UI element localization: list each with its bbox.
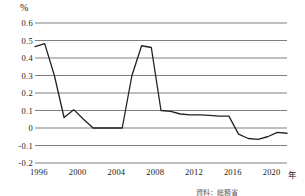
y-tick-label: 0 (1, 124, 33, 133)
x-tick-label: 1996 (22, 168, 56, 177)
y-tick-label: 0.5 (1, 37, 33, 46)
y-tick-label: 0.2 (1, 89, 33, 98)
y-tick-label: -0.1 (1, 142, 33, 151)
y-tick-label: 0.6 (1, 19, 33, 28)
source-note: 資料：総務省 (196, 187, 238, 196)
x-axis-unit-label: 年 (288, 168, 297, 180)
y-tick-label: 0.3 (1, 72, 33, 81)
x-tick-label: 2012 (177, 168, 211, 177)
line-chart: % 0.6 0.5 0.4 0.3 0.2 0.1 0 -0.1 -0.2 19… (0, 0, 305, 196)
y-axis-tick-labels: 0.6 0.5 0.4 0.3 0.2 0.1 0 -0.1 -0.2 (0, 0, 33, 196)
x-tick-label: 2008 (138, 168, 172, 177)
x-tick-label: 2004 (99, 168, 133, 177)
y-tick-label: -0.2 (1, 159, 33, 168)
x-tick-label: 2020 (255, 168, 289, 177)
x-tick-label: 2000 (61, 168, 95, 177)
x-tick-label: 2016 (216, 168, 250, 177)
y-tick-label: 0.1 (1, 107, 33, 116)
gridlines (35, 23, 287, 163)
y-tick-label: 0.4 (1, 54, 33, 63)
